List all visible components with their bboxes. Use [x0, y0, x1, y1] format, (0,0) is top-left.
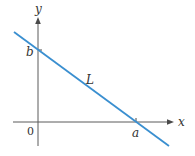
line-l — [14, 32, 169, 146]
y-axis-label: y — [34, 2, 42, 16]
x-intercept-label: a — [132, 126, 139, 140]
x-axis-label: x — [178, 115, 185, 129]
intercept-diagram: y x 0 b L a — [0, 0, 195, 156]
x-axis-arrow-icon — [167, 119, 174, 125]
origin-label: 0 — [27, 125, 34, 138]
y-intercept-label: b — [26, 45, 34, 59]
line-label: L — [85, 73, 94, 87]
y-axis-arrow-icon — [35, 17, 41, 24]
